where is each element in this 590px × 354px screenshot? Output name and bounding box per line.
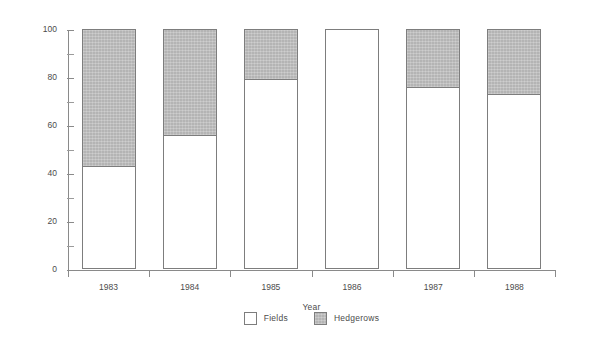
bar-segment-fields[interactable] [82,166,136,269]
y-axis-tick-40: 40 [67,174,68,175]
x-axis-category-label: 1985 [230,282,311,292]
x-axis-tick [555,270,556,277]
x-axis-category-label: 1984 [149,282,230,292]
chart-figure: Percentage found in each area 0204060801… [0,0,590,354]
bar-segment-hedgerows[interactable] [163,29,217,136]
tick-mark [67,30,74,31]
x-axis-category-label: 1987 [393,282,474,292]
legend-label: Fields [264,313,288,323]
y-axis-tick-label: 0 [17,264,57,274]
x-axis-category-label: 1988 [474,282,555,292]
x-axis-tick [393,270,394,277]
chart-legend: FieldsHedgerows [68,308,555,328]
legend-swatch-hedgerows [314,312,327,325]
y-axis-tick-label: 20 [17,216,57,226]
bar-group[interactable] [406,29,460,269]
legend-swatch-fields [244,312,257,325]
x-axis-tick [312,270,313,277]
y-axis-minor-tick-30 [67,198,74,199]
bar-segment-hedgerows[interactable] [82,29,136,167]
y-axis-minor-tick-10 [67,246,74,247]
y-axis-tick-label: 100 [17,24,57,34]
tick-mark [67,78,74,79]
legend-label: Hedgerows [334,313,379,323]
x-axis-tick [149,270,150,277]
bar-group[interactable] [163,29,217,269]
bar-segment-fields[interactable] [487,94,541,269]
legend-item-fields[interactable]: Fields [244,312,288,325]
y-axis-minor-tick-90 [67,54,74,55]
x-axis-category-label: 1986 [312,282,393,292]
bar-segment-hedgerows[interactable] [487,29,541,95]
tick-mark [67,222,74,223]
bar-group[interactable] [325,29,379,269]
bar-segment-fields[interactable] [325,29,379,269]
bar-segment-hedgerows[interactable] [244,29,298,80]
bar-group[interactable] [82,29,136,269]
x-axis-category-label: 1983 [68,282,149,292]
tick-mark [67,174,74,175]
y-axis-minor-tick-70 [67,102,74,103]
x-axis-tick [68,270,69,277]
y-axis-tick-60: 60 [67,126,68,127]
legend-item-hedgerows[interactable]: Hedgerows [314,312,379,325]
y-axis-tick-80: 80 [67,78,68,79]
x-axis-tick [230,270,231,277]
y-axis-tick-100: 100 [67,30,68,31]
plot-area: 020406080100 198319841985198619871988 Ye… [68,30,555,270]
x-axis-tick [474,270,475,277]
tick-mark [67,126,74,127]
bar-segment-fields[interactable] [406,87,460,269]
bar-group[interactable] [244,29,298,269]
bar-segment-fields[interactable] [163,135,217,269]
y-axis-tick-20: 20 [67,222,68,223]
bar-segment-fields[interactable] [244,79,298,269]
y-axis-tick-label: 80 [17,72,57,82]
y-axis-minor-tick-50 [67,150,74,151]
bar-group[interactable] [487,29,541,269]
y-axis-tick-label: 60 [17,120,57,130]
bar-segment-hedgerows[interactable] [406,29,460,88]
y-axis-tick-label: 40 [17,168,57,178]
